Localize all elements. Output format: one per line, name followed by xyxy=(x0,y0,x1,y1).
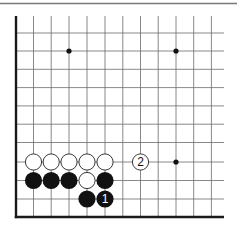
white-stone-icon xyxy=(61,154,77,170)
black-stone xyxy=(96,172,113,189)
move-number-label: 2 xyxy=(137,155,144,169)
black-stone-icon xyxy=(60,172,77,189)
white-stone xyxy=(61,154,77,170)
black-stone: 1 xyxy=(96,190,113,207)
white-stone-icon xyxy=(97,154,113,170)
black-stone xyxy=(25,172,42,189)
star-point-icon xyxy=(66,48,71,53)
go-board: 21 xyxy=(0,0,237,233)
white-stone-icon xyxy=(79,154,95,170)
black-stone-icon xyxy=(25,172,42,189)
white-stone-icon xyxy=(79,172,95,188)
black-stone-icon xyxy=(78,190,95,207)
star-point-icon xyxy=(173,159,178,164)
star-point-icon xyxy=(173,48,178,53)
white-stone-icon xyxy=(25,154,41,170)
white-stone xyxy=(25,154,41,170)
white-stone xyxy=(79,154,95,170)
board-grid xyxy=(15,16,224,218)
white-stone xyxy=(97,154,113,170)
white-stone-icon xyxy=(43,154,59,170)
black-stone-icon xyxy=(96,172,113,189)
black-stone xyxy=(43,172,60,189)
white-stone xyxy=(79,172,95,188)
black-stone-icon xyxy=(43,172,60,189)
black-stone xyxy=(60,172,77,189)
white-stone xyxy=(43,154,59,170)
white-stone: 2 xyxy=(132,154,148,170)
move-number-label: 1 xyxy=(102,192,109,206)
black-stone xyxy=(78,190,95,207)
